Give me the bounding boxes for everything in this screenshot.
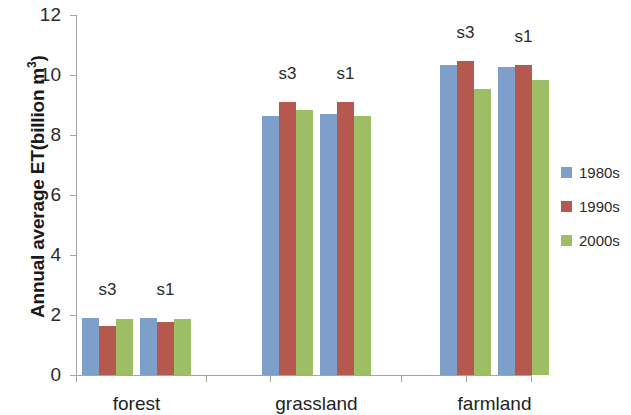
bar-forest-s3-1980s — [82, 318, 99, 375]
bar-grassland-s3-2000s — [296, 110, 313, 376]
legend-item-2000s: 2000s — [561, 223, 631, 257]
bar-farmland-s1-2000s — [532, 80, 549, 375]
bar-forest-s1-2000s — [174, 319, 191, 375]
legend-swatch-icon-1990s — [561, 201, 572, 212]
y-axis-title-tail: ) — [27, 55, 48, 61]
y-axis-tick-label: 6 — [50, 184, 61, 206]
y-axis-tick-label: 0 — [50, 364, 61, 386]
bar-grassland-s3-1980s — [262, 116, 279, 376]
bar-farmland-s1-1980s — [498, 67, 515, 375]
scenario-label-forest-s3: s3 — [82, 280, 134, 300]
y-axis-tick: 6 — [70, 195, 76, 196]
legend-item-1980s: 1980s — [561, 155, 631, 189]
bar-forest-s3-2000s — [116, 319, 133, 375]
legend: 1980s1990s2000s — [561, 155, 631, 257]
legend-label-1990s: 1990s — [579, 198, 620, 215]
scenario-label-forest-s1: s1 — [140, 280, 192, 300]
bar-farmland-s3-1980s — [440, 65, 457, 376]
legend-label-1980s: 1980s — [579, 164, 620, 181]
y-axis-line — [76, 15, 77, 376]
scenario-label-farmland-s3: s3 — [440, 23, 492, 43]
bar-farmland-s3-2000s — [474, 89, 491, 376]
y-axis-tick: 12 — [70, 15, 76, 16]
y-axis-tick-label: 10 — [40, 64, 61, 86]
bar-grassland-s1-1980s — [320, 114, 337, 375]
scenario-label-grassland-s1: s1 — [320, 64, 372, 84]
legend-item-1990s: 1990s — [561, 189, 631, 223]
legend-swatch-icon-1980s — [561, 167, 572, 178]
y-axis-tick-label: 4 — [50, 244, 61, 266]
x-axis-category-label-grassland: grassland — [237, 393, 397, 415]
bar-grassland-s1-1990s — [337, 102, 354, 375]
x-axis-tick — [531, 375, 532, 382]
x-axis-line — [76, 375, 532, 376]
y-axis-tick: 10 — [70, 75, 76, 76]
legend-swatch-icon-2000s — [561, 235, 572, 246]
x-axis-tick — [401, 375, 402, 382]
y-axis-tick: 2 — [70, 315, 76, 316]
y-axis-title-main: Annual average ET(billion m — [27, 68, 48, 318]
bar-farmland-s1-1990s — [515, 65, 532, 376]
y-axis-tick-label: 2 — [50, 304, 61, 326]
bar-grassland-s1-2000s — [354, 116, 371, 376]
bar-forest-s1-1990s — [157, 322, 174, 375]
y-axis-tick: 8 — [70, 135, 76, 136]
x-axis-category-label-farmland: farmland — [415, 393, 575, 415]
x-axis-tick — [270, 375, 271, 382]
plot-area: 024681012s3s1s3s1s3s1forestgrasslandfarm… — [76, 15, 531, 375]
bar-forest-s1-1980s — [140, 318, 157, 375]
bar-farmland-s3-1990s — [457, 61, 474, 375]
y-axis-title-superscript: 3 — [25, 61, 39, 67]
y-axis-tick: 4 — [70, 255, 76, 256]
bar-grassland-s3-1990s — [279, 102, 296, 375]
x-axis-tick — [206, 375, 207, 382]
scenario-label-grassland-s3: s3 — [262, 64, 314, 84]
x-axis-category-label-forest: forest — [57, 393, 217, 415]
y-axis-tick-label: 8 — [50, 124, 61, 146]
y-axis-tick-label: 12 — [40, 4, 61, 26]
x-axis-tick — [466, 375, 467, 382]
bar-forest-s3-1990s — [99, 326, 116, 376]
y-axis-title: Annual average ET(billion m3) — [25, 7, 48, 367]
scenario-label-farmland-s1: s1 — [498, 27, 550, 47]
x-axis-tick — [76, 375, 77, 382]
legend-label-2000s: 2000s — [579, 232, 620, 249]
